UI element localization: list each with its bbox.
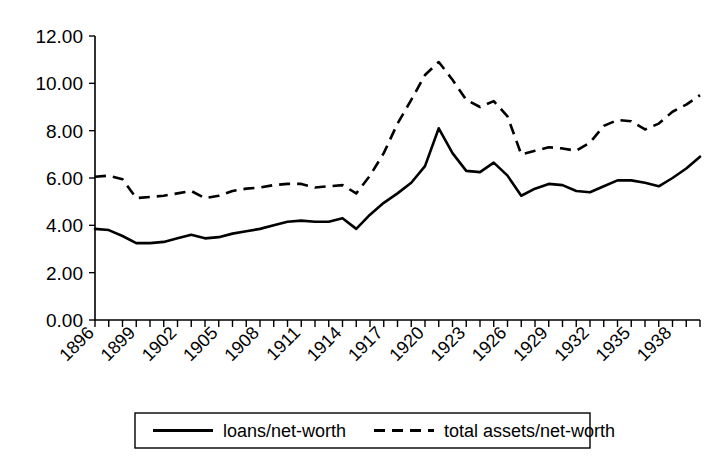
series-line-solid (95, 128, 700, 243)
y-axis-tick-label: 6.00 (46, 168, 83, 189)
line-chart: 12.0010.008.006.004.002.000.00 189618991… (0, 0, 721, 464)
x-axis-tick-label: 1914 (303, 323, 345, 365)
x-axis-tick-label: 1908 (220, 323, 262, 365)
y-axis-tick-label: 10.00 (35, 73, 83, 94)
y-axis-tick-label: 4.00 (46, 215, 83, 236)
x-axis-tick-labels: 1896189919021905190819111914191719201923… (55, 323, 675, 365)
x-axis-tick-label: 1920 (385, 323, 427, 365)
x-axis-tick-label: 1917 (344, 323, 386, 365)
x-axis-tick-label: 1899 (97, 323, 139, 365)
x-axis-tick-label: 1926 (468, 323, 510, 365)
y-axis-tick-label: 8.00 (46, 121, 83, 142)
x-axis-tick-label: 1929 (509, 323, 551, 365)
y-axis-tick-label: 12.00 (35, 26, 83, 47)
x-axis-tick-label: 1932 (550, 323, 592, 365)
legend-label: total assets/net-worth (444, 421, 615, 441)
legend-label: loans/net-worth (223, 421, 346, 441)
chart-series (95, 62, 700, 243)
chart-legend: loans/net-worthtotal assets/net-worth (135, 413, 615, 448)
y-axis-tick-labels: 12.0010.008.006.004.002.000.00 (35, 26, 83, 331)
chart-container: 12.0010.008.006.004.002.000.00 189618991… (0, 0, 721, 464)
y-axis-tick-label: 2.00 (46, 263, 83, 284)
x-axis-tick-label: 1902 (138, 323, 180, 365)
x-axis-tick-label: 1911 (263, 323, 305, 365)
chart-axes (89, 36, 700, 327)
x-axis-tick-label: 1935 (592, 323, 634, 365)
x-axis-tick-label: 1923 (427, 323, 469, 365)
x-axis-tick-label: 1938 (633, 323, 675, 365)
series-line-dashed (95, 62, 700, 198)
x-axis-tick-label: 1905 (179, 323, 221, 365)
